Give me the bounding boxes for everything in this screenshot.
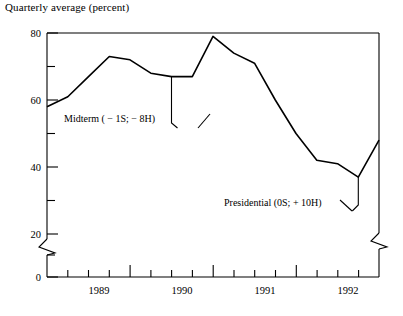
chart-svg: 80 60 40 20 0 1989 1990 xyxy=(0,0,403,316)
x-tick-label: 1992 xyxy=(338,285,359,296)
y-tick-label: 60 xyxy=(31,95,42,106)
annotation-midterm: Midterm ( − 1S; − 8H) xyxy=(64,113,155,125)
y-axis-minor-ticks xyxy=(47,67,55,256)
chart-container: Quarterly average (percent) xyxy=(0,0,403,316)
x-tick-label: 1989 xyxy=(89,285,110,296)
right-axis-break-icon xyxy=(371,233,387,249)
midterm-leader-line xyxy=(172,77,211,128)
presidential-leader-line xyxy=(340,177,358,211)
x-axis-ticks xyxy=(68,265,359,277)
y-tick-label: 20 xyxy=(31,229,42,240)
y-axis-labels: 80 60 40 20 0 xyxy=(31,28,42,283)
y-tick-label: 80 xyxy=(31,28,42,39)
x-axis-labels: 1989 1990 1991 1992 xyxy=(89,285,359,296)
y-tick-label: 40 xyxy=(31,162,42,173)
y-axis-major-ticks xyxy=(47,33,58,277)
annotation-presidential: Presidential (0S; + 10H) xyxy=(224,197,322,209)
y-tick-label: 0 xyxy=(36,272,41,283)
x-tick-label: 1991 xyxy=(255,285,276,296)
x-tick-label: 1990 xyxy=(172,285,193,296)
y-axis-break-icon xyxy=(39,239,55,255)
data-series-line xyxy=(47,36,379,177)
